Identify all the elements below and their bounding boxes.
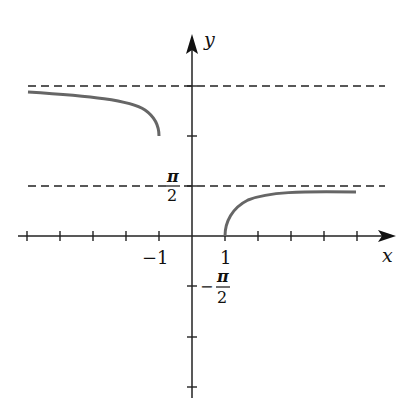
arcsec-graph: y x −1 1 π 2 − π 2 <box>0 0 419 417</box>
svg-text:π: π <box>216 267 229 286</box>
left-branch-curve <box>28 92 159 136</box>
tick-label-neg-pi-over-2: − π 2 <box>200 267 230 307</box>
tick-label-pi-over-2: π 2 <box>166 167 180 205</box>
tick-label-one: 1 <box>220 247 231 268</box>
y-axis-label: y <box>203 28 215 50</box>
right-branch-curve <box>225 192 356 236</box>
svg-text:π: π <box>166 167 179 186</box>
tick-label-neg-one: −1 <box>142 247 169 268</box>
svg-text:2: 2 <box>217 288 227 307</box>
x-axis-label: x <box>382 244 393 266</box>
svg-text:−: − <box>200 277 213 296</box>
svg-text:2: 2 <box>167 186 177 205</box>
